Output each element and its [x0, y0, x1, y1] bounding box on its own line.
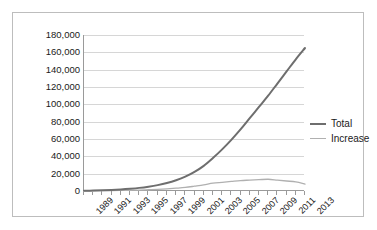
y-axis-tick-label: 160,000: [46, 47, 80, 57]
legend-line-swatch: [310, 138, 326, 139]
legend-item-total[interactable]: Total: [310, 116, 376, 131]
y-axis-tick-label: 180,000: [46, 30, 80, 40]
y-axis-tick-label: 20,000: [51, 169, 80, 179]
y-axis-tick-label: 60,000: [51, 134, 80, 144]
series-line-total: [84, 48, 305, 191]
x-axis-tick-label: 2003: [223, 195, 244, 216]
y-axis-tick-label: 120,000: [46, 82, 80, 92]
x-axis-tick-label: 2005: [241, 195, 262, 216]
x-axis-tick-label: 2001: [204, 195, 225, 216]
legend-item-label: Total: [331, 118, 352, 129]
plot-area: [83, 35, 304, 191]
x-axis-tick-label: 1997: [168, 195, 189, 216]
x-axis-tick-labels: 1989199119931995199719992001200320052007…: [83, 195, 304, 230]
y-axis-tick-label: 80,000: [51, 117, 80, 127]
y-axis-tick-label: 100,000: [46, 99, 80, 109]
y-axis-tick-label: 140,000: [46, 65, 80, 75]
x-axis-tick: [304, 191, 305, 195]
x-axis-tick-label: 1995: [149, 195, 170, 216]
y-axis-tick-label: 0: [75, 186, 80, 196]
x-axis-tick-label: 2007: [260, 195, 281, 216]
chart-frame: 020,00040,00060,00080,000100,000120,0001…: [12, 12, 364, 217]
x-axis-tick-label: 1991: [112, 195, 133, 216]
x-axis-tick-label: 1999: [186, 195, 207, 216]
legend-item-label: Increase: [331, 133, 369, 144]
legend-item-increase[interactable]: Increase: [310, 131, 376, 146]
y-axis-tick-label: 40,000: [51, 151, 80, 161]
x-axis-tick-label: 2009: [278, 195, 299, 216]
x-axis-tick-label: 2013: [315, 195, 336, 216]
chart-container: 020,00040,00060,00080,000100,000120,0001…: [0, 0, 377, 230]
y-axis-tick-labels: 020,00040,00060,00080,000100,000120,0001…: [25, 35, 80, 191]
legend-line-swatch: [310, 123, 326, 125]
x-axis-tick-label: 1993: [131, 195, 152, 216]
x-axis-tick-label: 2011: [296, 195, 317, 216]
x-axis-tick-label: 1989: [94, 195, 115, 216]
chart-legend: TotalIncrease: [310, 116, 376, 146]
series-lines: [84, 35, 305, 191]
